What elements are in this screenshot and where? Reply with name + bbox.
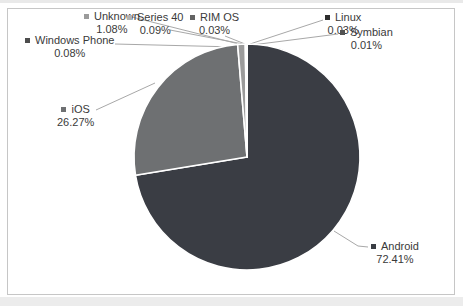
leader-line-series-40	[170, 30, 243, 44]
leader-line-windows-phone	[115, 44, 236, 47]
pie-slice-ios	[134, 44, 247, 175]
leader-line-android	[334, 231, 368, 247]
pie-chart	[0, 0, 463, 306]
screenshot-stage: Android72.41%iOS26.27%Unknown1.08%Window…	[0, 0, 463, 306]
